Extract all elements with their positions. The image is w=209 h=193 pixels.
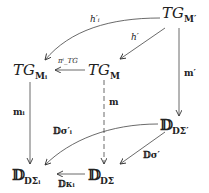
label-h-prime: h′ [131, 33, 139, 42]
label-d-sigma-prime: 𝔻σ′ [143, 151, 160, 160]
node-main: TG [162, 4, 184, 22]
node-sub: M′ [184, 14, 196, 24]
label-m-prime: m′ [184, 69, 196, 78]
label-d-kappa-i: 𝔻κᵢ [58, 180, 75, 189]
label-m: m [109, 98, 119, 107]
node-main: 𝔻 [160, 116, 172, 134]
arrow-h-prime [120, 28, 165, 59]
node-main: TG [13, 61, 35, 79]
node-main: TG [88, 61, 110, 79]
label-d-sigma-prime-i: 𝔻σ′ᵢ [53, 127, 72, 136]
label-m-i: mᵢ [13, 108, 25, 117]
node-sub: Mᵢ [35, 71, 47, 81]
node-tg-m-prime: TGM′ [162, 6, 196, 24]
node-main: 𝔻 [12, 166, 24, 184]
node-sub: DΣᵢ [24, 176, 40, 186]
node-d-ds: 𝔻DΣ [88, 168, 114, 186]
arrow-h-prime-i [45, 18, 160, 60]
node-sub: DΣ′ [172, 126, 189, 136]
diagram-arrows [0, 0, 209, 193]
label-h-prime-i: h′ᵢ [90, 15, 100, 24]
label-pi-tg: πⁱ_TG [58, 58, 78, 65]
node-d-ds-i: 𝔻DΣᵢ [12, 168, 40, 186]
node-sub: M [110, 71, 120, 81]
node-sub: DΣ [100, 176, 114, 186]
node-main: 𝔻 [88, 166, 100, 184]
node-d-ds-prime: 𝔻DΣ′ [160, 118, 189, 136]
node-tg-m: TGM [88, 63, 120, 81]
node-tg-m-i: TGMᵢ [13, 63, 47, 81]
